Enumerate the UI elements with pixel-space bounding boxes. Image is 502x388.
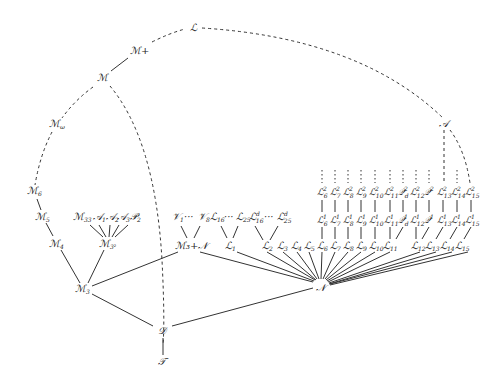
node-l15: ℒ15 xyxy=(455,240,470,252)
node-t: 𝒯 xyxy=(158,356,169,367)
edges-row1-bottom xyxy=(322,227,471,239)
edge-m3-m3n xyxy=(92,252,178,286)
edge-l16-l1 xyxy=(221,226,227,238)
ellipsis-l: ··· xyxy=(224,211,234,222)
node-l12: ℒ12 xyxy=(411,240,426,252)
bottom-row: ℒ2 ℒ3 ℒ4 ℒ5 ℒ6 ℒ7 ℒ8 ℒ9 ℒ10 ℒ11 ℒ12 ℒ13 … xyxy=(262,240,470,252)
node-l16d: ℒd16 xyxy=(249,210,264,224)
svg-text:ℒ210: ℒ210 xyxy=(369,185,384,199)
svg-text:ℒ18: ℒ18 xyxy=(343,213,354,227)
node-l7: ℒ7 xyxy=(330,240,341,252)
node-l11: ℒ11 xyxy=(383,240,398,252)
edge-a1-m32 xyxy=(99,225,106,237)
edge-m-mplus xyxy=(111,58,128,71)
node-m3-plus-n: ℳ₃+𝒩 xyxy=(175,240,211,251)
edge-d-n xyxy=(172,288,313,326)
node-v1: 𝒱1 xyxy=(172,211,184,223)
node-l25d: ℒd25 xyxy=(277,210,292,224)
edge-l25d-l2 xyxy=(270,226,278,240)
ellipsis-ld: ··· xyxy=(264,211,274,222)
edge-v1-m3n xyxy=(181,226,187,238)
edge-m3-d xyxy=(92,294,153,326)
node-v8: 𝒱8 xyxy=(198,211,210,223)
edge-a-l215 xyxy=(450,130,470,183)
dotted-continuations xyxy=(322,170,457,183)
node-l10: ℒ10 xyxy=(369,240,384,252)
node-a: 𝒜 xyxy=(439,118,452,129)
edge-momega-m6 xyxy=(35,132,52,185)
node-m32: ℳ3² xyxy=(99,238,117,250)
svg-text:ℒ213: ℒ213 xyxy=(437,185,452,199)
node-l5: ℒ5 xyxy=(304,240,315,252)
svg-text:ℒ28: ℒ28 xyxy=(343,185,354,199)
edge-m32-m3 xyxy=(88,250,104,283)
edge-mplus-l xyxy=(152,29,185,42)
node-d: 𝒟 xyxy=(158,325,168,336)
edge-p2-m32 xyxy=(115,225,128,237)
node-l6: ℒ6 xyxy=(317,240,328,252)
node-l16: ℒ16 xyxy=(210,211,225,223)
node-l2: ℒ2 xyxy=(262,240,273,252)
node-m: ℳ xyxy=(97,72,109,83)
edge-a3-m32 xyxy=(112,225,119,237)
node-l14: ℒ14 xyxy=(440,240,455,252)
svg-text:ℒ26: ℒ26 xyxy=(317,185,328,199)
svg-text:𝒬1: 𝒬1 xyxy=(424,213,434,225)
node-l: ℒ xyxy=(190,22,198,33)
node-n: 𝒩 xyxy=(316,282,329,293)
node-m-omega: ℳω xyxy=(49,118,65,130)
row-superscript-1: ℒ16 ℒ17 ℒ18 ℒ19 ℒ110 ℒ111 𝒬1d ℒ112 𝒬1 ℒ1… xyxy=(317,213,480,227)
svg-text:ℒ113: ℒ113 xyxy=(437,213,452,227)
edge-m4-m3 xyxy=(61,250,80,283)
edges-into-n xyxy=(200,252,468,285)
lattice-diagram: ℒ ℳ+ ℳ ℳω ℳ6 ℳ5 ℳ4 ℳ3 ℳ3² ℳ33 𝒜1 𝒜2 𝒜3 𝒫… xyxy=(0,0,502,388)
svg-text:ℒ19: ℒ19 xyxy=(356,213,367,227)
svg-text:ℒ211: ℒ211 xyxy=(384,185,398,199)
node-m5: ℳ5 xyxy=(35,211,50,223)
node-l3: ℒ3 xyxy=(277,240,288,252)
svg-text:𝒬2: 𝒬2 xyxy=(424,185,434,197)
edge-v8-m3n xyxy=(194,226,200,238)
svg-text:ℒ29: ℒ29 xyxy=(356,185,367,199)
edge-l25-l1 xyxy=(233,226,238,238)
svg-text:ℒ114: ℒ114 xyxy=(451,213,466,227)
node-l9: ℒ9 xyxy=(356,240,367,252)
edge-l-a xyxy=(202,28,443,118)
node-a1: 𝒜1 xyxy=(93,211,106,223)
svg-text:ℒ112: ℒ112 xyxy=(410,213,425,227)
node-m4: ℳ4 xyxy=(49,238,64,250)
node-m6: ℳ6 xyxy=(27,185,42,197)
node-m3: ℳ3 xyxy=(75,283,90,295)
ellipsis-v: ··· xyxy=(184,211,194,222)
node-p2: 𝒫2 xyxy=(130,211,141,223)
node-a3: 𝒜3 xyxy=(117,211,130,223)
svg-text:ℒ16: ℒ16 xyxy=(317,213,328,227)
svg-text:𝒬1d: 𝒬1d xyxy=(398,213,409,227)
node-l4: ℒ4 xyxy=(291,240,302,252)
svg-text:ℒ212: ℒ212 xyxy=(410,185,425,199)
svg-text:ℒ214: ℒ214 xyxy=(451,185,466,199)
edge-m6-m5 xyxy=(37,199,41,210)
edge-a2-m32 xyxy=(109,225,110,237)
svg-text:ℒ111: ℒ111 xyxy=(384,213,398,227)
svg-text:ℒ110: ℒ110 xyxy=(369,213,384,227)
node-m-plus: ℳ+ xyxy=(130,45,149,56)
svg-text:ℒ27: ℒ27 xyxy=(330,185,341,199)
svg-text:ℒ115: ℒ115 xyxy=(465,213,480,227)
svg-text:𝒬2d: 𝒬2d xyxy=(398,185,409,199)
node-l1: ℒ1 xyxy=(225,240,236,252)
node-l13: ℒ13 xyxy=(425,240,440,252)
svg-text:ℒ17: ℒ17 xyxy=(330,213,341,227)
edges-row2-row1 xyxy=(322,200,471,212)
edge-m33-m32 xyxy=(90,225,103,237)
edge-m5-m4 xyxy=(46,223,53,236)
svg-text:ℒ215: ℒ215 xyxy=(465,185,480,199)
edge-l16d-l2 xyxy=(255,226,263,240)
node-l8: ℒ8 xyxy=(343,240,354,252)
row-superscript-2: ℒ26 ℒ27 ℒ28 ℒ29 ℒ210 ℒ211 𝒬2d ℒ212 𝒬2 ℒ2… xyxy=(317,185,480,199)
node-m33: ℳ33 xyxy=(73,211,92,223)
edge-m-momega xyxy=(62,87,93,118)
